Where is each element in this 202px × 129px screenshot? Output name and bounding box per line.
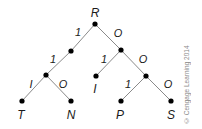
edge-label-n3-right: O bbox=[59, 78, 68, 90]
leaf-label-i: I bbox=[93, 82, 97, 96]
node-n2 bbox=[118, 47, 123, 52]
edge-label-n4-left: 1 bbox=[125, 78, 131, 90]
edge-n2-leaf-i bbox=[96, 50, 121, 76]
node-leaf-p bbox=[118, 98, 123, 103]
leaf-label-n: N bbox=[67, 108, 76, 122]
node-n1 bbox=[68, 48, 73, 53]
node-leaf-i bbox=[93, 73, 98, 78]
edge-label-n2-right: O bbox=[139, 53, 148, 65]
root-label: R bbox=[91, 6, 100, 20]
leaf-label-p: P bbox=[116, 108, 124, 122]
edge-n3-leaf-t bbox=[22, 75, 46, 101]
binary-tree-diagram: R T N I P S 1 O 1 I O 1 O 1 O bbox=[0, 0, 202, 129]
edge-label-n2-left: 1 bbox=[101, 53, 107, 65]
edge-label-root-right: O bbox=[114, 27, 123, 39]
node-root bbox=[92, 21, 97, 26]
node-leaf-t bbox=[19, 98, 24, 103]
node-n4 bbox=[143, 73, 148, 78]
edge-label-n3-left: I bbox=[29, 78, 32, 90]
leaf-label-s: S bbox=[167, 108, 175, 122]
leaf-label-t: T bbox=[17, 108, 26, 122]
node-n3 bbox=[43, 72, 48, 77]
edge-label-n4-right: O bbox=[164, 78, 173, 90]
node-leaf-s bbox=[168, 98, 173, 103]
edge-label-n1-left: 1 bbox=[50, 53, 56, 65]
node-leaf-n bbox=[68, 98, 73, 103]
copyright-notice: © Cengage Learning 2014 bbox=[180, 38, 194, 124]
edge-label-root-left: 1 bbox=[75, 26, 81, 38]
